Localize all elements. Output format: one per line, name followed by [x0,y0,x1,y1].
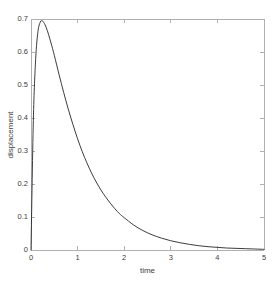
y-tick-label: 0.4 [18,114,28,122]
y-tick-label: 0.1 [18,213,28,221]
y-tick-label: 0 [24,246,28,254]
y-axis-label: displacement [6,111,15,158]
x-tick-label: 3 [169,254,173,262]
y-tick-label: 0.2 [18,180,28,188]
x-tick-label: 1 [76,254,80,262]
y-tick-label: 0.3 [18,147,28,155]
chart-background [0,0,277,284]
y-tick-label: 0.6 [18,48,28,56]
y-tick-label: 0.5 [18,81,28,89]
figure-container: 00.10.20.30.40.50.60.7 012345 time displ… [0,0,277,284]
y-tick-label: 0.7 [18,15,28,23]
x-tick-label: 5 [262,254,266,262]
x-tick-label: 2 [122,254,126,262]
x-tick-label: 0 [29,254,33,262]
chart-canvas [0,0,277,284]
x-tick-label: 4 [215,254,219,262]
x-axis-label: time [140,266,155,275]
